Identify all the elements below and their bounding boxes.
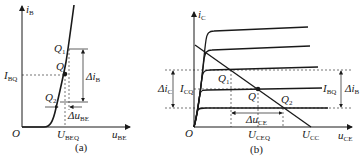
input-curve [22, 5, 74, 127]
caption-b: (b) [250, 143, 263, 156]
delta-ib-label-a: ΔiB [85, 70, 101, 84]
panel-a-input-characteristic: iB uBE O Q1 Q Q2 IBQ ΔiB ΔuBE UBEQ (a) [3, 3, 130, 154]
x-axis-label-a: uBE [112, 128, 126, 142]
panel-b-output-characteristic: iC uCE O Q1 Q Q2 ICQ IBQ ΔiC ΔiB ΔuCE UC… [157, 8, 360, 156]
delta-ib-label-b: ΔiB [344, 82, 360, 96]
y-axis-label-b: iC [198, 8, 206, 22]
caption-a: (a) [75, 141, 88, 154]
delta-uce-label-b: ΔuCE [245, 113, 267, 127]
q2-label-a: Q2 [45, 91, 57, 105]
q-label-b: Q [248, 90, 256, 102]
ibq-label-b: IBQ [322, 82, 336, 96]
icq-label-b: ICQ [179, 82, 193, 96]
x-axis-label-b: uCE [338, 129, 352, 143]
q-point-b [256, 87, 261, 92]
ucc-label-b: UCC [302, 128, 320, 142]
delta-ic-label-b: ΔiC [157, 82, 173, 96]
q1-label-a: Q1 [54, 42, 66, 56]
q1-label-b: Q1 [218, 72, 230, 86]
delta-ube-label-a: ΔuBE [67, 109, 89, 123]
q-label-a: Q [56, 60, 64, 72]
ubeq-label-a: UBEQ [57, 128, 79, 142]
transistor-characteristics-diagram: iB uBE O Q1 Q Q2 IBQ ΔiB ΔuBE UBEQ (a) [0, 0, 364, 166]
q2-label-b: Q2 [281, 93, 293, 107]
origin-label-b: O [185, 127, 193, 139]
origin-label-a: O [12, 127, 20, 139]
ibq-label-a: IBQ [3, 69, 17, 83]
uceq-label-b: UCEQ [248, 128, 270, 142]
y-axis-label-a: iB [26, 3, 34, 17]
q-point-a [63, 72, 68, 77]
